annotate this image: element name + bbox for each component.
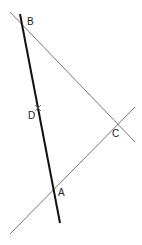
- line-ac: [10, 107, 135, 234]
- point-label-a: A: [58, 187, 65, 198]
- point-label-d: D: [28, 110, 35, 121]
- line-bc: [10, 12, 135, 142]
- geometry-diagram: B D C A: [0, 0, 142, 245]
- line-ba-thick: [20, 14, 60, 223]
- point-label-b: B: [27, 16, 34, 27]
- point-label-c: C: [112, 128, 119, 139]
